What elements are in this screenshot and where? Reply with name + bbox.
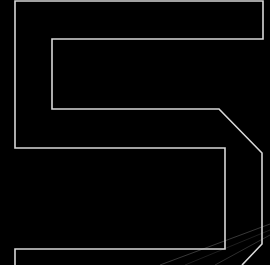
digit-five-outline-graphic xyxy=(0,0,270,265)
